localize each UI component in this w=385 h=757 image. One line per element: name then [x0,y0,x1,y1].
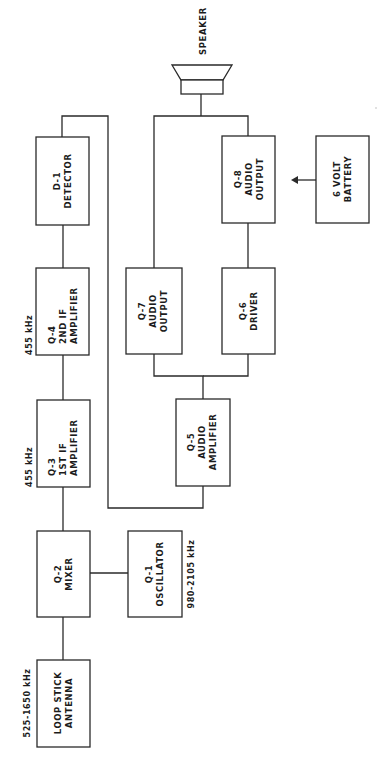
driver-id: Q-6 [238,302,248,321]
driver-line1: DRIVER [249,291,259,330]
wire-audioamp-q7 [154,354,203,399]
q8-id: Q-8 [233,170,243,189]
block-oscillator: Q-1 OSCILLATOR 980-2105 kHz [128,531,196,617]
battery-line1: 6 VOLT [332,161,342,197]
q7-line2: OUTPUT [159,290,169,332]
mixer-line1: MIXER [64,557,74,591]
audioamp-line2: AMPLIFIER [208,414,218,471]
arrowhead-icon [291,176,298,184]
q8-line1: AUDIO [244,162,254,196]
block-detector: D-1 DETECTOR [36,137,89,225]
oscillator-line1: OSCILLATOR [155,541,165,606]
if1-line2: AMPLIFIER [69,419,79,476]
block-battery: 6 VOLT BATTERY [316,136,369,223]
block-audio-amplifier: Q-5 AUDIO AMPLIFIER [176,399,230,486]
if2-freq: 455 kHz [25,315,34,355]
radio-block-diagram: SPEAKER LOOP STICK ANTENNA 525-1650 kHz … [0,0,385,757]
q8-line2: OUTPUT [255,158,265,200]
audioamp-id: Q-5 [186,433,196,452]
wire-audioamp-driver [203,354,248,376]
battery-line2: BATTERY [343,156,353,203]
audioamp-line1: AUDIO [197,425,207,459]
q7-id: Q-7 [137,302,147,321]
antenna-line2: ANTENNA [64,678,74,728]
if2-line1: 2ND IF [58,308,68,344]
if1-id: Q-3 [47,457,57,476]
oscillator-freq: 980-2105 kHz [187,540,196,609]
detector-line1: DETECTOR [63,153,73,208]
if2-line2: AMPLIFIER [69,287,79,344]
block-antenna: LOOP STICK ANTENNA 525-1650 kHz [23,660,90,747]
speaker: SPEAKER [172,7,232,94]
detector-id: D-1 [52,172,62,190]
oscillator-id: Q-1 [144,565,154,584]
antenna-freq: 525-1650 kHz [23,669,32,738]
antenna-line1: LOOP STICK [53,672,63,735]
block-driver: Q-6 DRIVER [222,268,275,354]
block-audio-output-q7: Q-7 AUDIO OUTPUT [126,268,182,354]
if2-id: Q-4 [47,325,57,344]
block-if1: Q-3 1ST IF AMPLIFIER 455 kHz [25,400,90,487]
paper-speck [375,107,377,109]
block-mixer: Q-2 MIXER [37,531,90,617]
speaker-cone-icon [172,65,232,80]
block-if2: Q-4 2ND IF AMPLIFIER 455 kHz [25,268,89,355]
block-audio-output-q8: Q-8 AUDIO OUTPUT [222,136,275,223]
q7-line1: AUDIO [148,294,158,328]
mixer-id: Q-2 [53,565,63,584]
speaker-label: SPEAKER [198,7,208,55]
if1-line1: 1ST IF [58,443,68,476]
speaker-magnet-icon [181,80,223,94]
if1-freq: 455 kHz [25,447,34,487]
